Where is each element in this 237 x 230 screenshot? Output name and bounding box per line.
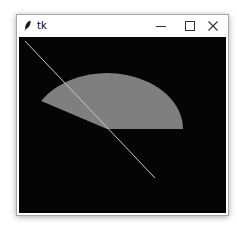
maximize-icon <box>185 21 195 31</box>
tk-window: tk <box>16 14 229 216</box>
canvas-drawing <box>19 37 226 213</box>
drawing-canvas[interactable] <box>19 37 226 213</box>
minimize-icon <box>156 21 166 31</box>
window-title: tk <box>37 20 47 32</box>
close-button[interactable] <box>198 15 228 37</box>
feather-icon <box>24 20 32 32</box>
close-icon <box>208 21 218 31</box>
minimize-button[interactable] <box>146 15 176 37</box>
pieslice-arc <box>41 73 183 129</box>
title-bar[interactable]: tk <box>17 15 228 37</box>
